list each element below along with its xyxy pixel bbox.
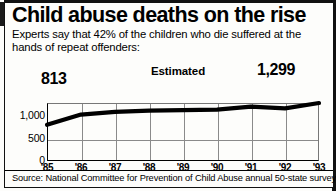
x-tick-label: '87 bbox=[109, 162, 122, 173]
headline-block: Child abuse deaths on the rise Experts s… bbox=[6, 3, 332, 55]
x-tick-label: '91 bbox=[245, 162, 258, 173]
infographic-panel: Child abuse deaths on the rise Experts s… bbox=[0, 0, 336, 191]
x-tick-label: '85 bbox=[41, 162, 54, 173]
callout-estimated-label: Estimated bbox=[151, 65, 205, 77]
x-tick-label: '92 bbox=[279, 162, 292, 173]
source-divider bbox=[5, 170, 333, 171]
callout-end-value: 1,299 bbox=[257, 61, 295, 79]
chart: 1,000 500 0 '85'86'87'88'89'90'91'92'93 … bbox=[5, 58, 333, 166]
x-tick-label: '89 bbox=[177, 162, 190, 173]
page-title: Child abuse deaths on the rise bbox=[12, 4, 326, 26]
x-tick-label: '90 bbox=[211, 162, 224, 173]
subheadline: Experts say that 42% of the children who… bbox=[12, 28, 326, 53]
callout-start-value: 813 bbox=[41, 70, 67, 88]
x-tick-label: '93 bbox=[313, 162, 326, 173]
x-tick-label: '86 bbox=[75, 162, 88, 173]
x-tick-label: '88 bbox=[143, 162, 156, 173]
source-attribution: Source: National Committee for Preventio… bbox=[12, 173, 336, 183]
